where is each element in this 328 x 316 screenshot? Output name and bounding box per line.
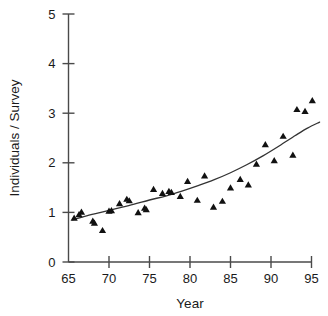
data-point: [210, 204, 217, 210]
y-tick-label: 3: [48, 106, 55, 121]
x-axis: 65707580859095: [61, 256, 318, 286]
y-axis-title: Individuals / Survey: [7, 79, 22, 196]
data-point: [227, 184, 234, 190]
data-point: [194, 197, 201, 203]
data-point: [219, 198, 226, 204]
chart-container: 012345 65707580859095 Individuals / Surv…: [0, 0, 328, 316]
data-point: [184, 178, 191, 184]
x-tick-label: 70: [102, 271, 116, 286]
data-point: [262, 141, 269, 147]
x-tick-label: 75: [142, 271, 156, 286]
data-point: [293, 106, 300, 112]
x-tick-label: 65: [61, 271, 75, 286]
y-axis: 012345: [48, 7, 74, 270]
data-point: [289, 152, 296, 158]
data-point: [177, 193, 184, 199]
data-point: [280, 133, 287, 139]
data-point: [245, 181, 252, 187]
y-tick-label: 4: [48, 56, 55, 71]
x-tick-label: 90: [264, 271, 278, 286]
y-tick-label: 0: [48, 255, 55, 270]
y-tick-label: 1: [48, 205, 55, 220]
data-point: [116, 200, 123, 206]
x-axis-title: Year: [176, 296, 204, 311]
data-point: [237, 176, 244, 182]
scatter-plot: 012345 65707580859095 Individuals / Surv…: [0, 0, 328, 316]
y-tick-label: 5: [48, 7, 55, 22]
data-point: [309, 97, 316, 103]
data-point-markers: [71, 97, 316, 233]
data-point: [159, 190, 166, 196]
data-point: [99, 227, 106, 233]
data-point: [150, 186, 157, 192]
data-point: [301, 108, 308, 114]
x-tick-label: 85: [223, 271, 237, 286]
x-tick-label: 80: [183, 271, 197, 286]
x-tick-label: 95: [304, 271, 318, 286]
data-point: [201, 172, 208, 178]
y-tick-label: 2: [48, 155, 55, 170]
data-point: [271, 157, 278, 163]
data-point: [135, 209, 142, 215]
